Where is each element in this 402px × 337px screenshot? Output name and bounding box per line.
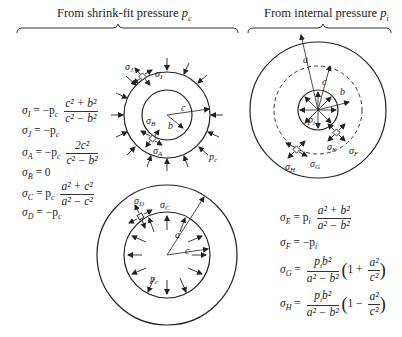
label-pi: pi [307, 114, 315, 127]
numerator-tail: b² [322, 289, 331, 301]
label-sigma-H: σH [285, 161, 296, 174]
fraction: a² + c²a² − c² [60, 181, 93, 207]
label-c-top: c [181, 102, 186, 113]
eq-sigma-C: σC = pc a² + c²a² − c² [22, 181, 94, 207]
numerator: a² + c² [60, 181, 93, 195]
label-c-right: c [322, 76, 327, 87]
fraction-paren: a²c² [368, 291, 379, 317]
brace-right [248, 24, 391, 33]
label-sigma-C: σC [160, 199, 170, 212]
element-EF [328, 124, 345, 141]
label-sigma-J: σJ [125, 61, 134, 74]
eq-sigma-J: σJ = −pc [22, 125, 59, 139]
numerator-tail: b² [322, 255, 331, 267]
eq-rhs: = −p [31, 124, 55, 136]
numerator: a² + b² [317, 205, 351, 219]
label-a-right: a [303, 54, 308, 65]
eq-op-sub: i [309, 217, 311, 226]
eq-rhs-sub: i [315, 242, 317, 251]
eq-op: = −p [30, 104, 54, 116]
eq-rhs-sub: c [58, 212, 62, 221]
numerator: c² + b² [64, 98, 97, 112]
eq-op: = −p [33, 146, 57, 158]
stress-diagram: σJ σI σB σA c b pc [0, 0, 402, 337]
denominator: c² − b² [64, 112, 97, 125]
fraction: pib²a² − b² [307, 290, 339, 319]
eq-op-sub: c [51, 193, 55, 202]
eq-op: = p [291, 211, 309, 223]
label-a-bottom: a [175, 229, 180, 240]
denominator: a² − b² [317, 219, 351, 232]
denominator: a² − c² [60, 195, 93, 208]
brace-left [17, 24, 238, 33]
paren-term: 1 − [347, 297, 365, 309]
eq-sigma-B: σB = 0 [22, 167, 51, 181]
fraction: 2c²c² − b² [66, 140, 97, 166]
eq-sigma-H: σH = pib²a² − b² (1 − a²c²) [280, 290, 386, 319]
paren-term: 1 + [347, 263, 365, 275]
denominator: c² [368, 271, 379, 284]
eq-op-sub: c [57, 152, 61, 161]
eq-rhs: = −p [33, 206, 57, 218]
numerator: a² [368, 257, 379, 271]
label-c-bottom: c [185, 245, 190, 256]
eq-op: = [291, 297, 303, 309]
eq-sigma-D: σD = −pc [22, 207, 62, 221]
eq-rhs: = 0 [33, 166, 51, 178]
fraction: a² + b²a² − b² [317, 205, 351, 231]
fraction: pib²a² − b² [307, 256, 339, 285]
label-pc-top: pc [208, 151, 218, 164]
fraction: c² + b²c² − b² [64, 98, 97, 124]
label-sigma-F: σF [349, 145, 359, 158]
eq-op: = p [33, 187, 51, 199]
label-sigma-E: σE [327, 141, 337, 154]
eq-op: = [291, 263, 303, 275]
denominator: c² − b² [66, 154, 97, 167]
eq-rhs: = −p [291, 236, 315, 248]
eq-sigma-G: σG = pib²a² − b² (1 + a²c²) [280, 256, 386, 285]
eq-rhs-sub: c [56, 130, 60, 139]
eq-sigma-F: σF = −pi [280, 237, 317, 251]
eq-sigma-E: σE = pi a² + b²a² − b² [280, 205, 351, 231]
numerator: 2c² [66, 140, 97, 154]
label-b-right: b [340, 86, 345, 97]
eq-sigma-I: σI = −pc c² + b²c² − b² [22, 98, 98, 124]
denominator: a² − b² [307, 306, 339, 319]
denominator: a² − b² [307, 272, 339, 285]
label-sigma-G: σG [310, 158, 320, 171]
label-sigma-I: σI [155, 68, 163, 81]
eq-sigma-A: σA = −pc 2c²c² − b² [22, 140, 98, 166]
fraction-paren: a²c² [368, 257, 379, 283]
label-sigma-B: σB [146, 115, 156, 128]
numerator: a² [368, 291, 379, 305]
denominator: c² [368, 305, 379, 318]
label-pc-bottom: pc [149, 273, 159, 286]
label-b-top: b [168, 120, 173, 131]
pc-arrows-inward [111, 58, 223, 171]
eq-op-sub: c [55, 110, 59, 119]
